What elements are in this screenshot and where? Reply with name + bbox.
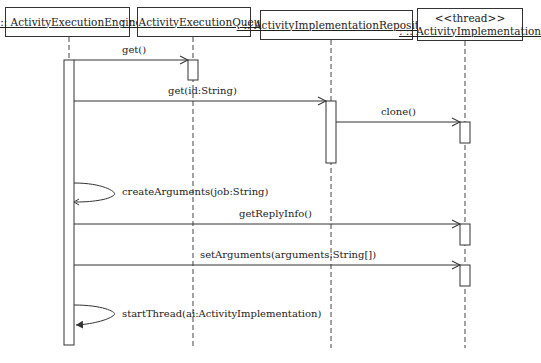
message-arrow-start-thread	[74, 305, 115, 325]
activation-implementation-2	[460, 224, 470, 245]
activation-engine	[64, 60, 74, 345]
message-label-start-thread: startThread(ai:ActivityImplementation)	[122, 308, 321, 319]
message-label-get-id: get(id:String)	[168, 85, 237, 96]
activation-implementation-3	[460, 265, 470, 286]
message-label-create-arguments: createArguments(job:String)	[122, 186, 268, 197]
message-label-get: get()	[122, 44, 146, 55]
message-label-clone: clone()	[381, 106, 416, 117]
activation-repository	[326, 101, 336, 163]
message-arrow-create-arguments	[74, 183, 115, 202]
activation-queue	[188, 60, 198, 80]
message-label-set-arguments: setArguments(arguments:String[])	[200, 249, 376, 260]
message-label-get-reply-info: getReplyInfo()	[239, 208, 312, 219]
activation-implementation-1	[460, 122, 470, 143]
